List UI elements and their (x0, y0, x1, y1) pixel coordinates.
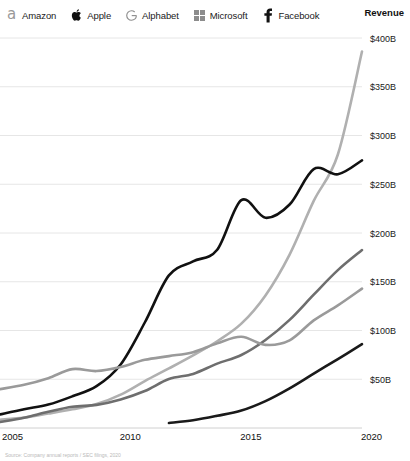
google-g-logo-icon (124, 8, 139, 23)
chart-page: a Amazon Apple Alphabet (0, 0, 410, 461)
x-tick-label: 2010 (120, 431, 141, 442)
y-tick-label: $50B (370, 375, 391, 385)
source-note: Source: Company annual reports / SEC fil… (5, 452, 121, 458)
legend-label-facebook: Facebook (278, 10, 319, 21)
chart-legend: a Amazon Apple Alphabet (0, 0, 410, 30)
series-line-alphabet (0, 250, 362, 422)
legend-item-facebook[interactable]: Facebook (260, 5, 319, 25)
legend-item-amazon[interactable]: a Amazon (4, 5, 56, 25)
y-tick-label: $300B (370, 131, 396, 141)
axis-title-revenue: Revenue (364, 7, 404, 18)
series-line-microsoft (0, 289, 362, 390)
facebook-f-logo-icon (260, 8, 275, 23)
legend-label-microsoft: Microsoft (210, 10, 248, 21)
legend-item-alphabet[interactable]: Alphabet (124, 5, 179, 25)
chart-series-lines (0, 52, 362, 423)
y-tick-label: $350B (370, 82, 396, 92)
chart-y-tick-labels: $50B$100B$150B$200B$250B$300B$350B$400B (370, 34, 396, 385)
y-tick-label: $400B (370, 34, 396, 44)
y-tick-label: $250B (370, 180, 396, 190)
chart-svg: $50B$100B$150B$200B$250B$300B$350B$400B (0, 30, 410, 430)
legend-item-apple[interactable]: Apple (69, 5, 111, 25)
series-line-facebook (169, 344, 362, 423)
y-tick-label: $150B (370, 277, 396, 287)
x-tick-label: 2015 (240, 431, 261, 442)
amazon-logo-icon: a (4, 8, 19, 23)
x-tick-label: 2005 (2, 431, 23, 442)
chart-x-axis: 2005201020152020 (0, 428, 410, 448)
y-tick-label: $100B (370, 326, 396, 336)
chart-plot-area: $50B$100B$150B$200B$250B$300B$350B$400B (0, 30, 410, 430)
microsoft-logo-icon (192, 8, 207, 23)
chart-x-tick-labels: 2005201020152020 (2, 431, 382, 442)
legend-label-alphabet: Alphabet (142, 10, 179, 21)
series-line-amazon (0, 52, 362, 420)
x-tick-label: 2020 (361, 431, 382, 442)
apple-logo-icon (69, 8, 84, 23)
legend-item-microsoft[interactable]: Microsoft (192, 5, 248, 25)
legend-label-apple: Apple (87, 10, 111, 21)
y-tick-label: $200B (370, 229, 396, 239)
legend-label-amazon: Amazon (22, 10, 56, 21)
chart-gridlines (0, 38, 362, 428)
